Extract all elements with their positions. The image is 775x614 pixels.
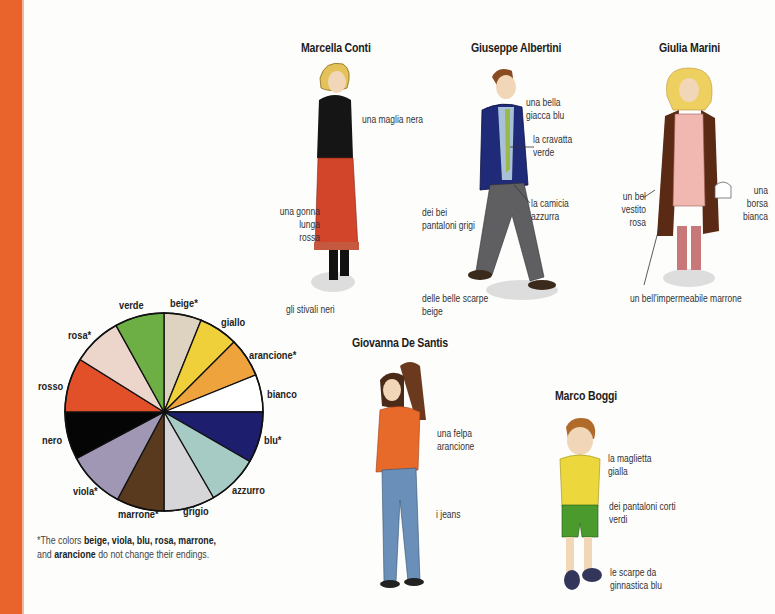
label-pantaloni-corti-line: dei pantaloni corti (609, 500, 676, 513)
wheel-label-nero: nero (42, 434, 62, 446)
label-pantaloni: dei bei pantaloni grigi (422, 206, 475, 232)
label-pantaloni-corti-line: verdi (609, 513, 676, 526)
label-scarpe-ginnastica: le scarpe da ginnastica blu (610, 566, 662, 592)
footnote: *The colors beige, viola, blu, rosa, mar… (37, 534, 216, 562)
person-name-marco: Marco Boggi (555, 389, 617, 403)
figure-marcella (305, 60, 375, 300)
label-stivali: gli stivali neri (286, 303, 335, 316)
label-scarpe-line: delle belle scarpe (422, 292, 488, 305)
footnote-line-1: *The colors beige, viola, blu, rosa, mar… (37, 534, 216, 548)
label-borsa: una borsa bianca (727, 184, 768, 223)
label-gonna-line: lunga (262, 218, 320, 231)
wheel-label-grigio: grigio (183, 505, 209, 517)
wheel-label-bianco: bianco (267, 388, 297, 400)
label-impermeabile: un bell'impermeabile marrone (630, 292, 742, 305)
footnote-bold: beige, viola, blu, rosa, marrone, (84, 535, 216, 546)
wheel-label-azzurro: azzurro (232, 484, 265, 496)
label-felpa: una felpa arancione (437, 427, 474, 453)
orange-side-bar (0, 0, 22, 614)
label-borsa-line: bianca (727, 210, 768, 223)
label-giacca-line: una bella (526, 96, 564, 109)
label-felpa-line: arancione (437, 440, 474, 453)
person-name-giulia: Giulia Marini (659, 41, 720, 55)
wheel-label-marrone: marrone* (118, 508, 159, 520)
label-scarpe: delle belle scarpe beige (422, 292, 488, 318)
label-cravatta: la cravatta verde (533, 133, 572, 159)
footnote-line-2: and arancione do not change their ending… (37, 548, 216, 562)
wheel-label-blu: blu* (264, 434, 281, 446)
label-maglietta-line: gialla (608, 465, 651, 478)
label-maglia: una maglia nera (362, 113, 423, 126)
label-camicia-line: azzurra (531, 210, 569, 223)
wheel-label-giallo: giallo (221, 316, 245, 328)
footnote-text: do not change their endings. (96, 549, 210, 560)
label-camicia: la camicia azzurra (531, 197, 569, 223)
side-bar-edge (22, 0, 24, 614)
label-giacca-line: giacca blu (526, 109, 564, 122)
wheel-label-rosso: rosso (38, 380, 63, 392)
wheel-label-beige: beige* (170, 297, 198, 309)
label-vestito-line: rosa (598, 216, 646, 229)
label-giacca: una bella giacca blu (526, 96, 564, 122)
person-name-giuseppe: Giuseppe Albertini (471, 41, 561, 55)
label-felpa-line: una felpa (437, 427, 474, 440)
label-scarpe-ginnastica-line: ginnastica blu (610, 579, 662, 592)
label-gonna-line: una gonna (262, 205, 320, 218)
footnote-text: and (37, 549, 54, 560)
wheel-label-arancione: arancione* (249, 349, 296, 361)
label-scarpe-ginnastica-line: le scarpe da (610, 566, 662, 579)
wheel-label-verde: verde (119, 299, 144, 311)
label-cravatta-line: verde (533, 146, 572, 159)
label-pantaloni-corti: dei pantaloni corti verdi (609, 500, 676, 526)
label-borsa-line: borsa (727, 197, 768, 210)
label-vestito-line: vestito (598, 203, 646, 216)
label-cravatta-line: la cravatta (533, 133, 572, 146)
label-pantaloni-line: dei bei (422, 206, 475, 219)
label-vestito: un bel vestito rosa (598, 190, 646, 229)
label-jeans: i jeans (436, 508, 461, 521)
label-gonna: una gonna lunga rossa (262, 205, 320, 244)
label-scarpe-line: beige (422, 305, 488, 318)
wheel-label-viola: viola* (73, 485, 98, 497)
footnote-text: *The colors (37, 535, 84, 546)
label-maglietta: la maglietta gialla (608, 452, 651, 478)
label-camicia-line: la camicia (531, 197, 569, 210)
label-vestito-line: un bel (598, 190, 646, 203)
label-pantaloni-line: pantaloni grigi (422, 219, 475, 232)
figure-marco (552, 415, 612, 600)
footnote-bold: arancione (54, 549, 96, 560)
figure-giovanna (370, 360, 440, 595)
wheel-label-rosa: rosa* (68, 329, 91, 341)
person-name-marcella: Marcella Conti (301, 41, 371, 55)
label-maglietta-line: la maglietta (608, 452, 651, 465)
label-gonna-line: rossa (262, 231, 320, 244)
color-wheel (63, 311, 265, 513)
label-borsa-line: una (727, 184, 768, 197)
person-name-giovanna: Giovanna De Santis (352, 336, 448, 350)
